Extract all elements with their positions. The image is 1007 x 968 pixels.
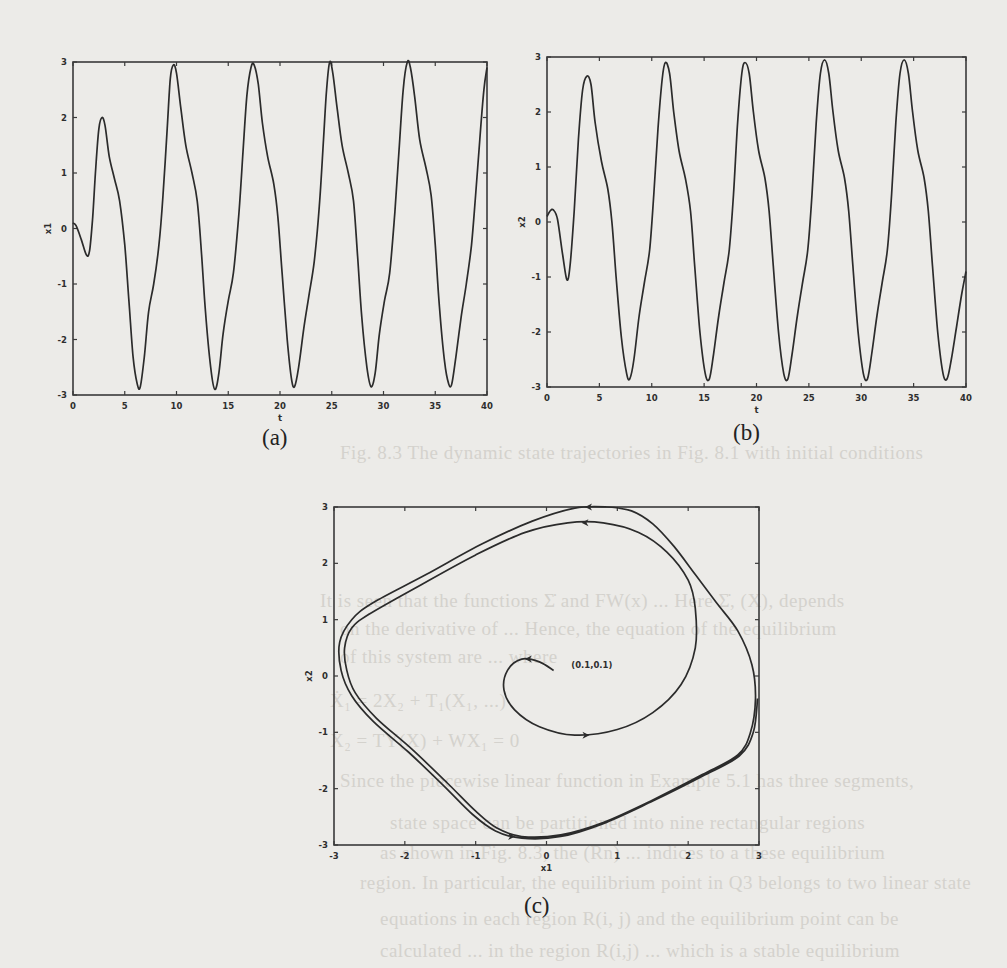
- y-tick-label: 1: [322, 615, 328, 625]
- direction-arrow-icon: [581, 519, 588, 526]
- series-line-c: [339, 506, 758, 838]
- initial-condition-label: (0.1,0.1): [571, 660, 612, 670]
- chart-c-phase-portrait: -3-2-10123-3-2-10123x1x2(0.1,0.1): [0, 0, 1007, 968]
- x-tick-label: -1: [471, 851, 481, 861]
- y-tick-label: -2: [319, 784, 329, 794]
- y-tick-label: 2: [322, 558, 328, 568]
- x-tick-label: -2: [400, 851, 410, 861]
- y-tick-label: 3: [322, 502, 328, 512]
- y-tick-label: -3: [319, 840, 329, 850]
- y-tick-label: -1: [319, 727, 329, 737]
- y-tick-label: 0: [322, 671, 328, 681]
- x-tick-label: 1: [614, 851, 620, 861]
- x-tick-label: -3: [329, 851, 339, 861]
- plot-frame: [334, 507, 759, 845]
- x-tick-label: 0: [544, 851, 550, 861]
- x-tick-label: 2: [685, 851, 691, 861]
- x-axis-label: x1: [541, 863, 552, 873]
- caption-c: (c): [524, 893, 550, 919]
- x-tick-label: 3: [756, 851, 762, 861]
- y-axis-label: x2: [304, 670, 314, 681]
